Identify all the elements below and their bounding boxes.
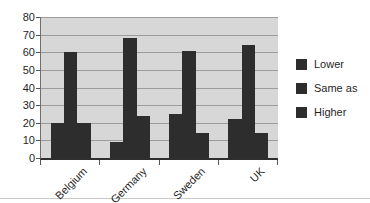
x-tick-1 — [99, 160, 100, 165]
bottom-rule — [0, 198, 370, 199]
bar-uk-lower — [228, 119, 241, 158]
y-axis-label-30: 30 — [7, 99, 35, 111]
bar-belgium-same-as — [64, 52, 77, 158]
bar-sweden-lower — [169, 114, 182, 158]
legend-label-lower: Lower — [314, 58, 344, 70]
x-axis-label-belgium: Belgium — [53, 165, 90, 202]
bar-belgium-lower — [51, 123, 64, 158]
bar-sweden-same-as — [182, 51, 195, 159]
legend-label-higher: Higher — [314, 106, 346, 118]
y-tick-0 — [36, 158, 40, 159]
bar-germany-higher — [137, 116, 150, 158]
y-axis-label-60: 60 — [7, 46, 35, 58]
y-axis-label-70: 70 — [7, 29, 35, 41]
legend-item-same-as: Same as — [296, 82, 357, 94]
bar-uk-higher — [255, 133, 268, 158]
y-axis-label-20: 20 — [7, 117, 35, 129]
x-tick-3 — [218, 160, 219, 165]
y-axis-label-10: 10 — [7, 134, 35, 146]
bar-chart: Lower Same as Higher 01020304050607080Be… — [0, 0, 370, 203]
y-tick-30 — [36, 105, 40, 106]
y-tick-10 — [36, 140, 40, 141]
y-tick-70 — [36, 35, 40, 36]
legend-swatch-lower — [296, 59, 307, 70]
bar-sweden-higher — [196, 133, 209, 158]
bar-uk-same-as — [242, 45, 255, 158]
legend-swatch-same-as — [296, 83, 307, 94]
bar-belgium-higher — [77, 123, 90, 158]
gridline-70 — [41, 35, 278, 36]
x-tick-0 — [40, 160, 41, 165]
gridline-80 — [41, 17, 278, 18]
x-axis-label-uk: UK — [248, 165, 267, 184]
plot-area — [40, 17, 278, 160]
legend-item-lower: Lower — [296, 58, 357, 70]
y-tick-80 — [36, 17, 40, 18]
y-tick-20 — [36, 123, 40, 124]
legend-label-same-as: Same as — [314, 82, 357, 94]
y-tick-50 — [36, 70, 40, 71]
legend-item-higher: Higher — [296, 106, 357, 118]
y-axis-label-80: 80 — [7, 11, 35, 23]
y-tick-40 — [36, 88, 40, 89]
y-tick-60 — [36, 52, 40, 53]
y-axis-label-0: 0 — [7, 152, 35, 164]
x-tick-4 — [277, 160, 278, 165]
legend-swatch-higher — [296, 107, 307, 118]
x-axis-label-sweden: Sweden — [171, 165, 208, 202]
bar-germany-same-as — [123, 38, 136, 158]
y-axis-label-40: 40 — [7, 82, 35, 94]
y-axis-label-50: 50 — [7, 64, 35, 76]
legend: Lower Same as Higher — [296, 58, 357, 130]
x-tick-2 — [159, 160, 160, 165]
bar-germany-lower — [110, 142, 123, 158]
